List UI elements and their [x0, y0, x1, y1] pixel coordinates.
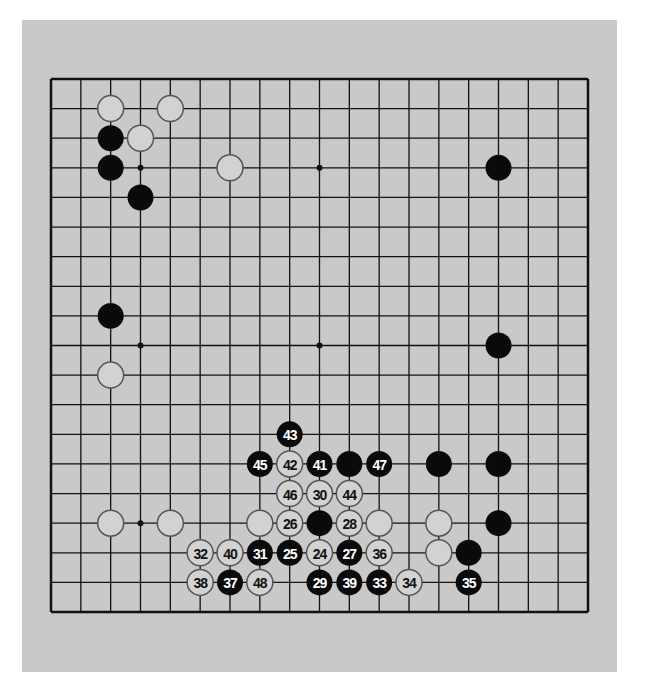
move-number: 30 — [313, 487, 328, 503]
white-stone — [426, 510, 452, 536]
move-number: 48 — [253, 575, 268, 591]
white-stone-34: 34 — [396, 569, 422, 595]
move-number: 34 — [402, 575, 417, 591]
white-stone — [366, 510, 392, 536]
white-stone-44: 44 — [336, 481, 362, 507]
star-point-icon — [138, 165, 144, 171]
black-stone-icon — [98, 155, 124, 181]
move-number: 25 — [283, 546, 298, 562]
move-number: 46 — [283, 487, 298, 503]
black-stone-icon — [486, 333, 512, 359]
white-stone-36: 36 — [366, 540, 392, 566]
white-stone-icon — [128, 125, 154, 151]
black-stone — [98, 155, 124, 181]
white-stone — [128, 125, 154, 151]
white-stone — [247, 510, 273, 536]
white-stone-icon — [217, 155, 243, 181]
move-number: 37 — [223, 575, 238, 591]
white-stone — [157, 96, 183, 122]
black-stone-29: 29 — [307, 569, 333, 595]
black-stone-icon — [98, 303, 124, 329]
move-number: 26 — [283, 516, 298, 532]
white-stone-30: 30 — [307, 481, 333, 507]
black-stone-43: 43 — [277, 421, 303, 447]
move-number: 45 — [253, 457, 268, 473]
white-stone-icon — [366, 510, 392, 536]
black-stone-47: 47 — [366, 451, 392, 477]
white-stone — [157, 510, 183, 536]
white-stone-icon — [157, 510, 183, 536]
black-stone-25: 25 — [277, 540, 303, 566]
move-number: 32 — [193, 546, 208, 562]
black-stone-icon — [98, 125, 124, 151]
move-number: 43 — [283, 427, 298, 443]
move-number: 33 — [372, 575, 387, 591]
move-number: 27 — [343, 546, 358, 562]
black-stone-icon — [336, 451, 362, 477]
black-stone-27: 27 — [336, 540, 362, 566]
black-stone-39: 39 — [336, 569, 362, 595]
black-stone — [486, 451, 512, 477]
move-number: 35 — [462, 575, 477, 591]
black-stone — [307, 510, 333, 536]
white-stone-icon — [98, 362, 124, 388]
move-number: 36 — [372, 546, 387, 562]
star-point-icon — [317, 343, 323, 349]
white-stone-28: 28 — [336, 510, 362, 536]
white-stone-48: 48 — [247, 569, 273, 595]
black-stone — [486, 155, 512, 181]
black-stone — [98, 125, 124, 151]
star-point-icon — [138, 520, 144, 526]
white-stone-38: 38 — [187, 569, 213, 595]
black-stone-icon — [426, 451, 452, 477]
star-point-icon — [317, 165, 323, 171]
white-stone — [217, 155, 243, 181]
move-number: 47 — [372, 457, 387, 473]
white-stone-icon — [247, 510, 273, 536]
black-stone-icon — [486, 510, 512, 536]
white-stone-icon — [157, 96, 183, 122]
black-stone-icon — [128, 184, 154, 210]
white-stone-46: 46 — [277, 481, 303, 507]
black-stone — [426, 451, 452, 477]
white-stone — [98, 362, 124, 388]
move-number: 44 — [343, 487, 358, 503]
black-stone-37: 37 — [217, 569, 243, 595]
move-number: 28 — [343, 516, 358, 532]
black-stone-icon — [486, 155, 512, 181]
star-point-icon — [138, 343, 144, 349]
black-stone-icon — [456, 540, 482, 566]
black-stone-icon — [307, 510, 333, 536]
move-number: 24 — [313, 546, 328, 562]
white-stone-icon — [98, 510, 124, 536]
black-stone — [456, 540, 482, 566]
white-stone-42: 42 — [277, 451, 303, 477]
black-stone-45: 45 — [247, 451, 273, 477]
move-number: 29 — [313, 575, 328, 591]
white-stone — [426, 540, 452, 566]
move-number: 41 — [313, 457, 328, 473]
black-stone — [128, 184, 154, 210]
white-stone-24: 24 — [307, 540, 333, 566]
go-board[interactable]: 4345424147463044262832403125242736383748… — [0, 0, 645, 684]
black-stone-icon — [486, 451, 512, 477]
white-stone-40: 40 — [217, 540, 243, 566]
move-number: 31 — [253, 546, 268, 562]
black-stone — [336, 451, 362, 477]
white-stone — [98, 96, 124, 122]
black-stone-31: 31 — [247, 540, 273, 566]
white-stone-26: 26 — [277, 510, 303, 536]
white-stone — [98, 510, 124, 536]
move-number: 40 — [223, 546, 238, 562]
white-stone-32: 32 — [187, 540, 213, 566]
black-stone-41: 41 — [307, 451, 333, 477]
black-stone-33: 33 — [366, 569, 392, 595]
black-stone — [486, 510, 512, 536]
move-number: 38 — [193, 575, 208, 591]
black-stone — [486, 333, 512, 359]
move-number: 39 — [343, 575, 358, 591]
white-stone-icon — [426, 510, 452, 536]
black-stone — [98, 303, 124, 329]
move-number: 42 — [283, 457, 298, 473]
white-stone-icon — [98, 96, 124, 122]
